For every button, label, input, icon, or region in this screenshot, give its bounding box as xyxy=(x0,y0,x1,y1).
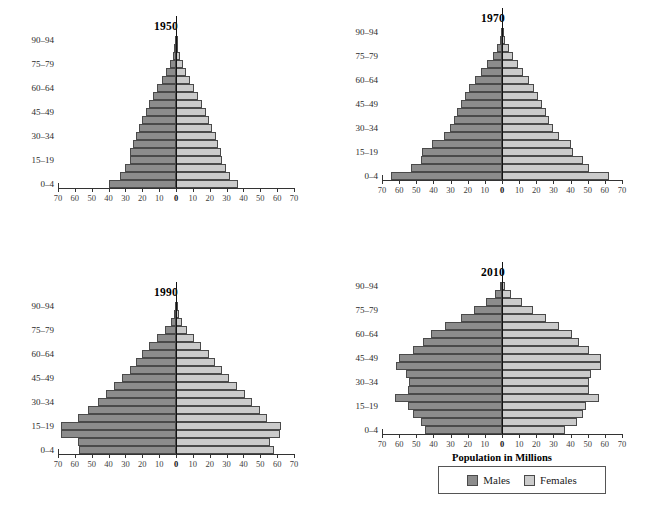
bar-male xyxy=(133,140,176,148)
x-axis-tick-label: 70 xyxy=(290,193,299,203)
x-axis-tick xyxy=(399,180,400,184)
x-axis-tick-label: 40 xyxy=(566,185,575,195)
x-axis-tick-label: 50 xyxy=(412,439,421,449)
bar-male xyxy=(162,76,176,84)
bar-female xyxy=(176,68,186,76)
y-axis xyxy=(58,183,59,189)
age-group-label: 90–94 xyxy=(14,35,54,45)
bar-male xyxy=(98,398,176,406)
bar-female xyxy=(176,350,209,358)
x-axis-tick-label: 30 xyxy=(549,439,558,449)
bar-female xyxy=(176,140,218,148)
x-axis-tick-label: 50 xyxy=(256,193,265,203)
x-axis-tick xyxy=(75,188,76,192)
bar-female xyxy=(502,426,565,434)
x-axis-tick xyxy=(176,454,177,458)
x-axis-tick xyxy=(588,434,589,438)
x-axis-tick-label: 60 xyxy=(71,193,80,203)
bar-female xyxy=(502,172,609,180)
bar-female xyxy=(176,398,252,406)
age-group-label: 0–4 xyxy=(14,179,54,189)
bar-female xyxy=(176,342,201,350)
x-axis-tick xyxy=(485,180,486,184)
bar-male xyxy=(109,180,176,188)
bar-female xyxy=(176,358,215,366)
age-group-label: 45–49 xyxy=(338,353,378,363)
bar-male xyxy=(408,402,502,410)
bar-female xyxy=(502,156,583,164)
x-axis-tick-label: 50 xyxy=(583,439,592,449)
x-axis-tick xyxy=(588,180,589,184)
bar-male xyxy=(149,342,176,350)
x-axis-tick xyxy=(468,434,469,438)
age-group-label: 15–19 xyxy=(338,147,378,157)
age-group-label: 0–4 xyxy=(338,171,378,181)
x-axis-tick-label: 10 xyxy=(189,193,198,203)
bar-female xyxy=(502,322,559,330)
x-axis-tick-label: 30 xyxy=(446,185,455,195)
x-axis-tick-label: 40 xyxy=(239,459,248,469)
x-axis-tick xyxy=(485,434,486,438)
bar-female xyxy=(502,418,577,426)
bar-male xyxy=(139,124,176,132)
x-axis-tick xyxy=(210,454,211,458)
bar-female xyxy=(176,124,212,132)
center-axis-line xyxy=(502,8,503,180)
x-axis-tick xyxy=(243,454,244,458)
bar-female xyxy=(502,298,522,306)
bar-male xyxy=(157,334,176,342)
age-group-label: 45–49 xyxy=(14,373,54,383)
x-axis-tick-label: 20 xyxy=(138,193,147,203)
x-axis-tick xyxy=(571,180,572,184)
bar-male xyxy=(88,406,176,414)
bar-male xyxy=(413,346,502,354)
x-axis-tick-label: 40 xyxy=(429,185,438,195)
bar-female xyxy=(502,84,534,92)
bar-female xyxy=(176,382,237,390)
x-axis-tick-label: 10 xyxy=(481,439,490,449)
x-axis-tick xyxy=(451,180,452,184)
x-axis-tick xyxy=(451,434,452,438)
bar-male xyxy=(486,298,502,306)
bar-female xyxy=(176,406,260,414)
x-axis-tick xyxy=(468,180,469,184)
bar-male xyxy=(395,394,502,402)
bar-male xyxy=(461,100,502,108)
x-axis-tick-label: 20 xyxy=(205,459,214,469)
x-axis-tick xyxy=(243,188,244,192)
chart-title-1970: 1970 xyxy=(362,12,624,24)
bar-male xyxy=(409,378,502,386)
bar-male xyxy=(142,116,176,124)
x-axis-tick xyxy=(260,454,261,458)
age-group-label: 30–34 xyxy=(14,131,54,141)
bar-male xyxy=(454,116,502,124)
bar-male xyxy=(411,164,502,172)
age-group-label: 60–64 xyxy=(338,329,378,339)
x-axis-tick xyxy=(92,188,93,192)
bar-male xyxy=(408,386,502,394)
x-axis-tick-label: 70 xyxy=(290,459,299,469)
bar-female xyxy=(176,60,183,68)
x-axis-tick-label: 20 xyxy=(463,185,472,195)
bar-female xyxy=(176,446,274,454)
x-axis-tick xyxy=(109,454,110,458)
y-axis xyxy=(58,449,59,455)
x-axis-tick xyxy=(193,454,194,458)
age-group-label: 60–64 xyxy=(338,75,378,85)
bar-female xyxy=(502,76,529,84)
bar-male xyxy=(146,108,176,116)
x-axis-tick-label: 40 xyxy=(566,439,575,449)
bar-male xyxy=(493,52,502,60)
x-axis-tick xyxy=(142,188,143,192)
x-axis-tick xyxy=(193,188,194,192)
bar-male xyxy=(391,172,502,180)
x-axis-tick-label: 60 xyxy=(273,193,282,203)
x-axis-tick-label: 10 xyxy=(155,459,164,469)
bar-female xyxy=(502,338,579,346)
plot-area-2010 xyxy=(382,282,622,434)
age-group-label: 75–79 xyxy=(338,51,378,61)
legend-swatch-males-icon xyxy=(467,475,478,486)
x-axis-tick xyxy=(227,454,228,458)
bar-female xyxy=(176,164,226,172)
x-axis-tick-label: 10 xyxy=(189,459,198,469)
